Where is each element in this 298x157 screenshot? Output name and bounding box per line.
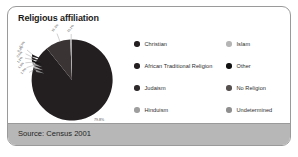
legend-label-other: Other bbox=[237, 63, 251, 69]
legend-swatch-other bbox=[226, 63, 232, 69]
legend-item-hinduism[interactable]: Hinduism bbox=[134, 99, 224, 121]
pie-label-african-traditional-religion: 0.3% bbox=[18, 40, 26, 48]
chart-legend: Christian African Traditional Religion J… bbox=[134, 33, 291, 121]
chart-card: Religious affiliation bbox=[7, 6, 291, 146]
legend-column-right: Islam Other No Religion Undetermined bbox=[226, 33, 291, 121]
legend-swatch-african-traditional-religion bbox=[134, 63, 140, 69]
pie-label-top-right: 15.1% bbox=[66, 24, 75, 34]
legend-label-african-traditional-religion: African Traditional Religion bbox=[145, 63, 213, 69]
legend-swatch-no-religion bbox=[226, 85, 232, 91]
legend-item-islam[interactable]: Islam bbox=[226, 33, 291, 55]
legend-label-christian: Christian bbox=[145, 41, 168, 47]
chart-source-footer: Source: Census 2001 bbox=[8, 123, 290, 145]
legend-label-hinduism: Hinduism bbox=[145, 107, 169, 113]
legend-item-african-traditional-religion[interactable]: African Traditional Religion bbox=[134, 55, 224, 77]
legend-item-christian[interactable]: Christian bbox=[134, 33, 224, 55]
legend-swatch-judaism bbox=[134, 85, 140, 91]
legend-swatch-christian bbox=[134, 41, 140, 47]
legend-swatch-hinduism bbox=[134, 107, 140, 113]
legend-item-other[interactable]: Other bbox=[226, 55, 291, 77]
pie-label-christian: 79.8% bbox=[94, 118, 105, 122]
pie-slice-christian bbox=[32, 39, 113, 120]
legend-label-no-religion: No Religion bbox=[237, 85, 266, 91]
legend-label-judaism: Judaism bbox=[145, 85, 166, 91]
legend-item-undetermined[interactable]: Undetermined bbox=[226, 99, 291, 121]
legend-column-left: Christian African Traditional Religion J… bbox=[134, 33, 224, 121]
legend-item-judaism[interactable]: Judaism bbox=[134, 77, 224, 99]
source-text: Source: Census 2001 bbox=[18, 129, 91, 138]
legend-label-islam: Islam bbox=[237, 41, 251, 47]
pie-label-top-left: 15.1% bbox=[51, 23, 60, 33]
legend-item-no-religion[interactable]: No Religion bbox=[226, 77, 291, 99]
page-title: Religious affiliation bbox=[18, 13, 99, 23]
legend-swatch-islam bbox=[226, 41, 232, 47]
legend-label-undetermined: Undetermined bbox=[237, 107, 273, 113]
legend-swatch-undetermined bbox=[226, 107, 232, 113]
